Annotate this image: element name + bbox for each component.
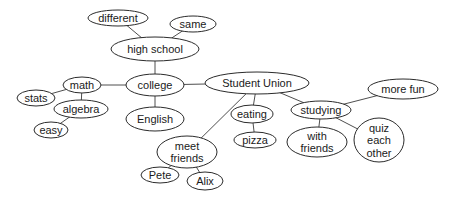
node-label: high school	[127, 43, 183, 55]
concept-map: differentsamehigh schoolmathstatsalgebra…	[0, 0, 451, 198]
node-label: Pete	[149, 169, 172, 181]
node-studying: studying	[291, 101, 351, 119]
node-english: English	[126, 107, 184, 131]
node-same: same	[170, 16, 216, 32]
node-label: with	[306, 130, 327, 142]
node-easy: easy	[34, 122, 68, 138]
node-label: each	[367, 134, 391, 146]
node-label: Alix	[196, 175, 214, 187]
node-label: English	[137, 113, 173, 125]
node-label: other	[366, 147, 391, 159]
node-label: Student Union	[222, 77, 292, 89]
node-pizza: pizza	[234, 132, 276, 148]
node-label: more fun	[381, 83, 424, 95]
node-math: math	[63, 77, 101, 93]
edge-layer	[36, 18, 403, 181]
node-layer: differentsamehigh schoolmathstatsalgebra…	[17, 10, 438, 190]
node-label: stats	[24, 92, 48, 104]
node-label: quiz	[369, 122, 389, 134]
node-label: easy	[39, 124, 63, 136]
node-pete: Pete	[141, 167, 179, 183]
node-with-friends: withfriends	[287, 127, 347, 157]
node-high-school: high school	[111, 37, 199, 61]
node-stats: stats	[17, 90, 55, 106]
node-college: college	[126, 74, 184, 96]
node-algebra: algebra	[54, 100, 108, 118]
node-label: eating	[237, 108, 267, 120]
node-label: different	[98, 12, 138, 24]
node-label: studying	[301, 104, 342, 116]
node-label: algebra	[63, 103, 101, 115]
node-label: friends	[170, 152, 204, 164]
node-student-union: Student Union	[205, 72, 309, 94]
node-different: different	[88, 10, 148, 26]
node-eating: eating	[231, 105, 273, 123]
node-quiz: quizeachother	[354, 118, 404, 162]
node-meet-friends: meetfriends	[157, 136, 217, 168]
concept-map-svg: differentsamehigh schoolmathstatsalgebra…	[0, 0, 451, 198]
node-label: meet	[175, 140, 199, 152]
node-label: math	[70, 79, 94, 91]
node-label: college	[138, 79, 173, 91]
node-more-fun: more fun	[368, 79, 438, 99]
node-alix: Alix	[187, 172, 223, 190]
node-label: pizza	[242, 134, 269, 146]
node-label: same	[180, 18, 207, 30]
node-label: friends	[300, 142, 334, 154]
